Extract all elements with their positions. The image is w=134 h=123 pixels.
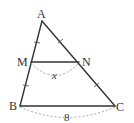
measure-label-bc: 8	[64, 111, 70, 123]
tick-mark-am	[34, 42, 40, 43]
tick-mark-mb	[23, 85, 29, 86]
label-c: C	[116, 100, 124, 114]
label-b: B	[9, 99, 17, 113]
label-m: M	[17, 55, 28, 69]
label-n: N	[82, 55, 91, 69]
measure-label-mn: x	[51, 69, 57, 81]
side-ac	[42, 21, 115, 106]
label-a: A	[37, 7, 46, 21]
triangle-diagram: A M N B C x 8	[0, 0, 134, 123]
